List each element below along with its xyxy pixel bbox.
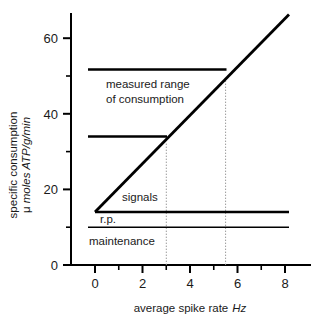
y-axis-title-units: moles ATP/g/min [20,117,32,203]
measured-range-label-line2: of consumption [106,93,184,105]
x-tick-label-4: 4 [186,276,193,291]
y-axis-title-line1: specific consumption [7,112,19,219]
x-tick-label-6: 6 [234,276,241,291]
x-tick-label-2: 2 [139,276,146,291]
y-axis-title: specific consumption μ moles ATP/g/min [7,112,32,219]
y-axis-title-mu: μ [20,203,32,213]
chart-background [0,0,321,319]
x-tick-label-8: 8 [281,276,288,291]
chart-figure: specific consumption μ moles ATP/g/min 0… [0,0,321,319]
maintenance-label: maintenance [89,235,155,247]
rp-label: r.p. [100,213,116,225]
signals-label: signals [122,191,158,203]
x-axis-title-plain: average spike rate [134,302,229,314]
measured-range-label-line1: measured range [106,78,190,90]
consumption-vs-spike-rate-chart: specific consumption μ moles ATP/g/min 0… [0,0,321,319]
y-tick-label-0: 0 [51,258,58,273]
y-tick-label-40: 40 [44,107,58,122]
y-tick-label-60: 60 [44,31,58,46]
y-axis-title-line2: μ moles ATP/g/min [20,117,32,213]
x-tick-label-0: 0 [91,276,98,291]
y-tick-label-20: 20 [44,182,58,197]
x-axis-title-units: Hz [232,302,246,314]
